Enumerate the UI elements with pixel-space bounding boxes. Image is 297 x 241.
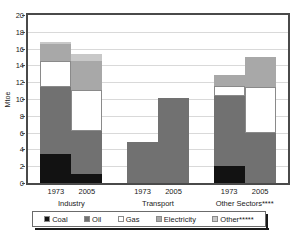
y-tick-label: 10	[4, 95, 24, 104]
stacked-bar-chart: Mtoe 02468101214161820 19732005Industry1…	[0, 0, 297, 241]
y-tick-mark	[22, 149, 25, 150]
bar-segment-gas[interactable]	[245, 87, 276, 133]
legend-shadow-right	[266, 214, 268, 230]
plot-area	[28, 15, 288, 183]
y-tick-mark	[22, 133, 25, 134]
y-tick-label: 6	[4, 128, 24, 137]
y-tick-mark	[22, 166, 25, 167]
y-tick-label: 16	[4, 44, 24, 53]
legend-swatch-icon	[212, 216, 218, 222]
legend-label: Coal	[52, 215, 67, 224]
plot-frame	[26, 13, 290, 185]
group-label: Other Sectors****	[216, 199, 274, 208]
group-label: Transport	[142, 199, 174, 208]
bar-segment-electricity[interactable]	[214, 75, 245, 85]
bar-segment-coal[interactable]	[71, 174, 102, 183]
legend-swatch-icon	[44, 216, 50, 222]
y-tick-mark	[22, 116, 25, 117]
bar-segment-electricity[interactable]	[245, 57, 276, 87]
bar-segment-gas[interactable]	[40, 61, 71, 87]
x-tick-label: 1973	[221, 187, 238, 196]
y-tick-mark	[22, 32, 25, 33]
y-tick-label: 14	[4, 61, 24, 70]
y-tick-mark	[22, 183, 25, 184]
bar[interactable]	[127, 15, 158, 183]
bar-segment-oil[interactable]	[40, 87, 71, 153]
y-axis-ticks: 02468101214161820	[0, 13, 24, 185]
bar-segment-gas[interactable]	[71, 90, 102, 131]
bar-segment-coal[interactable]	[40, 154, 71, 183]
y-tick-label: 0	[4, 179, 24, 188]
bar-segment-oil[interactable]	[127, 142, 158, 183]
y-tick-label: 20	[4, 11, 24, 20]
y-tick-label: 2	[4, 162, 24, 171]
legend-item[interactable]: Other*****	[212, 215, 253, 224]
legend-label: Gas	[126, 215, 140, 224]
bar-segment-other[interactable]	[71, 54, 102, 62]
bar-segment-oil[interactable]	[71, 131, 102, 174]
bar-segment-oil[interactable]	[245, 133, 276, 183]
bar[interactable]	[158, 15, 189, 183]
legend-swatch-icon	[118, 216, 124, 222]
bar-segment-electricity[interactable]	[71, 61, 102, 90]
chart-legend: CoalOilGasElectricityOther*****	[32, 211, 266, 227]
x-tick-label: 2005	[165, 187, 182, 196]
y-tick-mark	[22, 15, 25, 16]
bar-segment-oil[interactable]	[158, 98, 189, 183]
bar-segment-gas[interactable]	[214, 86, 245, 97]
y-tick-label: 8	[4, 111, 24, 120]
y-tick-mark	[22, 49, 25, 50]
bar-segment-oil[interactable]	[214, 96, 245, 166]
x-tick-label: 2005	[252, 187, 269, 196]
legend-item[interactable]: Oil	[84, 215, 101, 224]
legend-item[interactable]: Gas	[118, 215, 140, 224]
legend-item[interactable]: Coal	[44, 215, 67, 224]
y-tick-mark	[22, 65, 25, 66]
y-tick-label: 18	[4, 27, 24, 36]
legend-swatch-icon	[156, 216, 162, 222]
legend-label: Other*****	[220, 215, 253, 224]
x-tick-label: 2005	[78, 187, 95, 196]
legend-shadow-bottom	[35, 228, 269, 230]
bar-segment-coal[interactable]	[214, 166, 245, 183]
legend-swatch-icon	[84, 216, 90, 222]
bar-segment-electricity[interactable]	[40, 44, 71, 61]
group-label: Industry	[58, 199, 85, 208]
legend-label: Oil	[92, 215, 101, 224]
y-tick-label: 12	[4, 78, 24, 87]
bar[interactable]	[71, 15, 102, 183]
legend-item[interactable]: Electricity	[156, 215, 196, 224]
y-tick-mark	[22, 82, 25, 83]
y-tick-mark	[22, 99, 25, 100]
bar-segment-other[interactable]	[40, 42, 71, 45]
bar[interactable]	[40, 15, 71, 183]
y-tick-label: 4	[4, 145, 24, 154]
legend-label: Electricity	[164, 215, 196, 224]
x-tick-label: 1973	[47, 187, 64, 196]
bar[interactable]	[245, 15, 276, 183]
x-tick-label: 1973	[134, 187, 151, 196]
bar[interactable]	[214, 15, 245, 183]
